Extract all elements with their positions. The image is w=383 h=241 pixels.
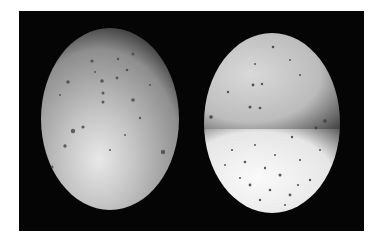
- right-egg: [200, 30, 345, 219]
- eggs-photo: [0, 0, 383, 241]
- left-egg: [41, 28, 179, 210]
